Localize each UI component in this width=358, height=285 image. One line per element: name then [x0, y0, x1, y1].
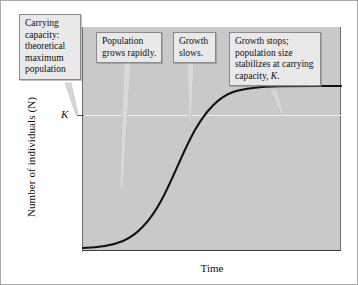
- callout-growth-stops-line2: population size: [235, 48, 293, 58]
- callout-growth-stops-line1: Growth stops;: [235, 36, 289, 46]
- callout-growth-stops-line3: stabilizes at: [235, 59, 280, 69]
- leader-growth-slows: [187, 59, 194, 123]
- callout-carrying-capacity: Carrying capacity: theoretical maximum p…: [19, 14, 81, 80]
- callout-growth-stops: Growth stops; population size stabilizes…: [229, 32, 321, 86]
- leader-grows-rapidly: [120, 59, 131, 187]
- leader-growth-stops: [269, 89, 284, 115]
- callout-grows-rapidly: Population grows rapidly.: [96, 32, 162, 63]
- logistic-growth-figure: K Carrying capacity: theoretical maximum…: [0, 0, 358, 285]
- callout-growth-slows: Growth slows.: [173, 32, 216, 63]
- leader-carrying-capacity: [65, 83, 78, 115]
- callout-growth-stops-period: .: [277, 71, 279, 81]
